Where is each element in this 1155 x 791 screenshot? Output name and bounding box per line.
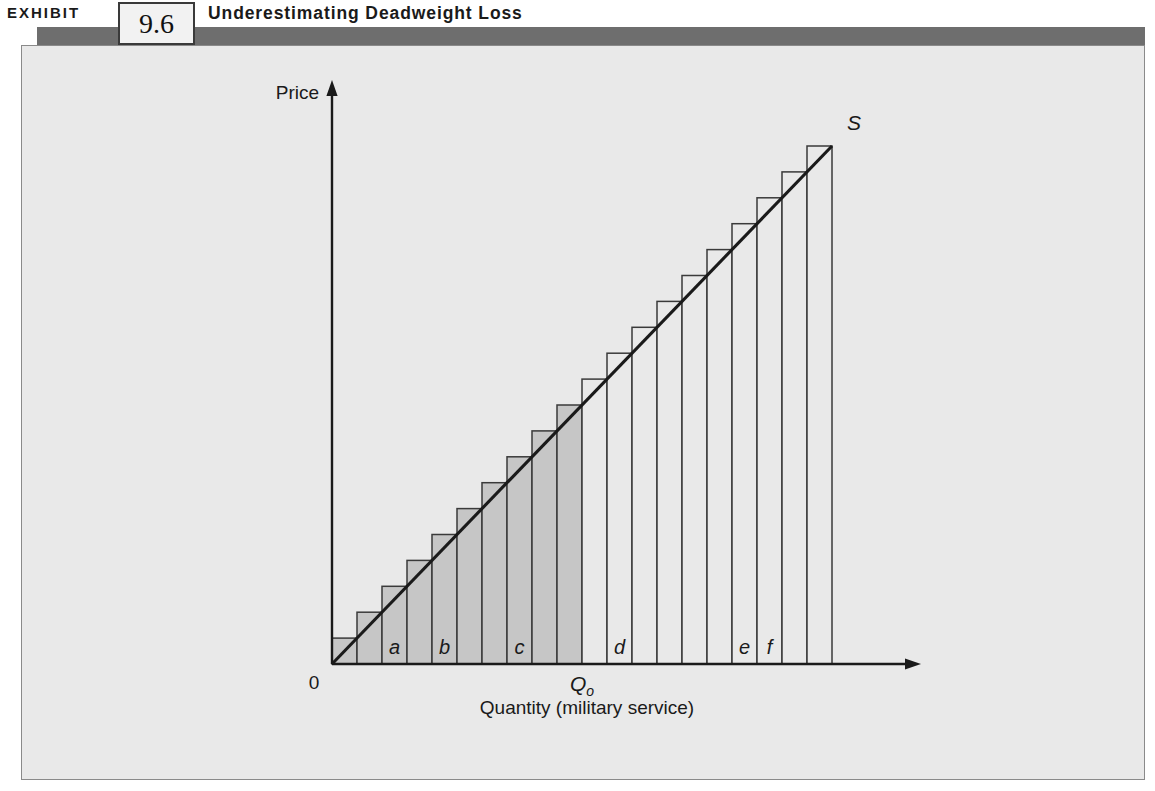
bar-letter-label: d	[614, 636, 626, 658]
q0-main-letter: Q	[570, 672, 586, 695]
supply-step-bar	[582, 379, 607, 664]
x-axis-label: Quantity (military service)	[480, 697, 694, 718]
exhibit-header: EXHIBIT 9.6 Underestimating Deadweight L…	[0, 0, 1155, 50]
y-axis-arrow-icon	[326, 80, 337, 96]
origin-label: 0	[309, 672, 320, 693]
exhibit-number-label: 9.6	[120, 4, 193, 43]
supply-step-bar	[607, 353, 632, 664]
q0-subscript: o	[586, 683, 594, 699]
supply-curve-label: S	[847, 111, 861, 134]
exhibit-title: Underestimating Deadweight Loss	[208, 3, 523, 24]
supply-step-bar	[632, 327, 657, 664]
supply-curve-chart: Price Quantity (military service) 0 Qo S…	[22, 46, 1145, 780]
supply-step-bar	[357, 612, 382, 664]
bar-letter-label: e	[739, 636, 750, 658]
supply-step-bar	[657, 301, 682, 664]
x-axis-arrow-icon	[905, 658, 921, 669]
supply-step-bar	[407, 560, 432, 664]
exhibit-word-label: EXHIBIT	[7, 4, 80, 21]
figure-panel: Price Quantity (military service) 0 Qo S…	[21, 45, 1145, 780]
supply-step-bar	[707, 250, 732, 664]
supply-step-bar	[732, 224, 757, 664]
bar-letter-label: b	[439, 636, 450, 658]
supply-step-bar	[557, 405, 582, 664]
supply-step-bar	[482, 483, 507, 664]
header-banner-bar	[37, 27, 1145, 45]
supply-step-bar	[507, 457, 532, 664]
supply-step-bar	[782, 172, 807, 664]
supply-step-bar	[532, 431, 557, 664]
bar-letter-label: c	[515, 636, 525, 658]
q0-marker-label: Qo	[570, 672, 594, 699]
supply-step-bar	[807, 146, 832, 664]
y-axis-label: Price	[276, 82, 319, 103]
supply-step-bar	[682, 276, 707, 665]
exhibit-number-box: 9.6	[118, 2, 195, 45]
supply-step-bar	[757, 198, 782, 664]
bar-letter-label: a	[389, 636, 400, 658]
